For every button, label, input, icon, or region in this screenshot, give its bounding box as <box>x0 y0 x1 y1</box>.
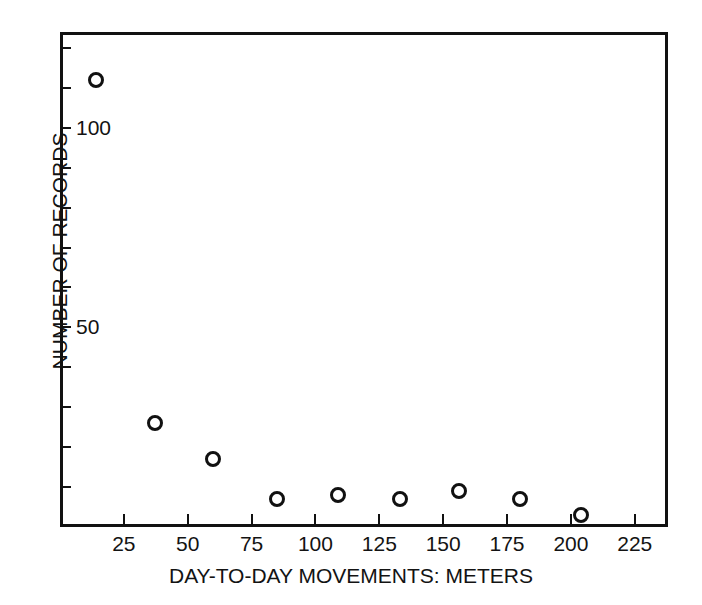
data-point <box>147 415 163 431</box>
y-tick-120 <box>60 47 71 49</box>
x-tick-75 <box>251 514 253 525</box>
y-tick-label-50: 50 <box>76 316 136 337</box>
x-tick-175 <box>506 514 508 525</box>
x-tick-50 <box>187 514 189 525</box>
y-axis-title: NUMBER OF RECORDS <box>49 71 71 431</box>
data-point <box>392 491 408 507</box>
data-point <box>451 483 467 499</box>
x-tick-150 <box>442 514 444 525</box>
data-point <box>512 491 528 507</box>
x-tick-200 <box>570 514 572 525</box>
data-point <box>88 72 104 88</box>
x-tick-100 <box>314 514 316 525</box>
y-tick-10 <box>60 486 71 488</box>
x-tick-label-225: 225 <box>595 533 675 554</box>
x-tick-25 <box>123 514 125 525</box>
y-tick-label-100: 100 <box>76 117 136 138</box>
y-tick-20 <box>60 446 71 448</box>
scatter-plot-figure: 50100 255075100125150175200225 NUMBER OF… <box>0 0 702 605</box>
x-axis-title: DAY-TO-DAY MOVEMENTS: METERS <box>0 565 702 587</box>
x-tick-125 <box>378 514 380 525</box>
plot-frame <box>60 32 668 527</box>
x-tick-225 <box>634 514 636 525</box>
